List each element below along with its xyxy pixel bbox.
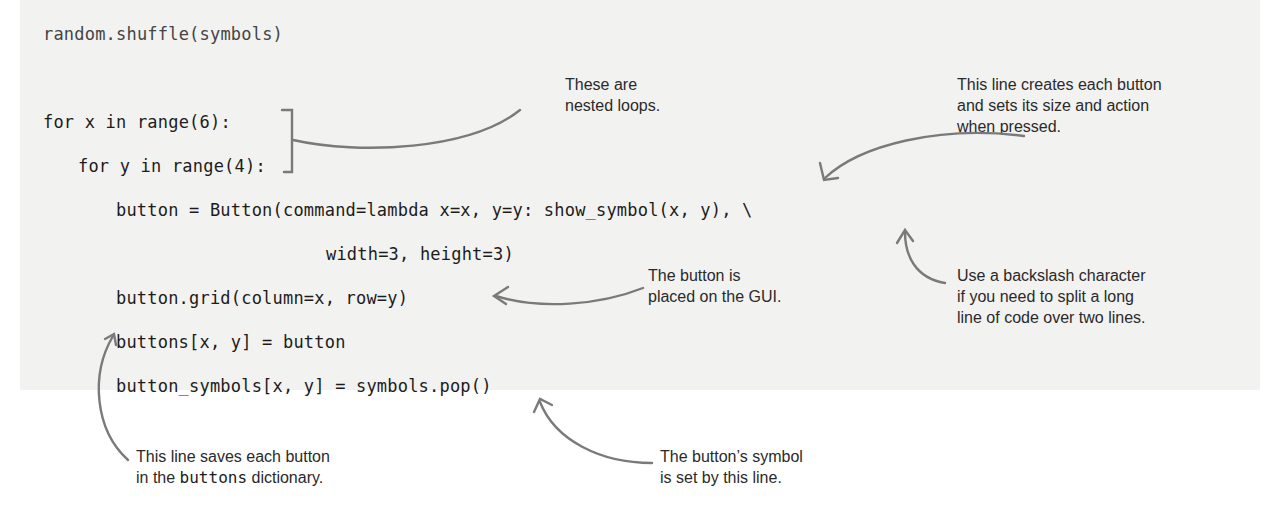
annotation-arrows [0, 0, 1268, 532]
placed-gui-arrowhead-icon [494, 287, 508, 304]
creates-button-arrowhead-icon [820, 163, 838, 180]
placed-gui-arrow-icon [496, 288, 643, 304]
saves-button-arrow-icon [99, 336, 128, 460]
nested-loops-connector-icon [293, 110, 520, 148]
symbol-set-arrow-icon [540, 402, 652, 463]
creates-button-arrow-icon [825, 133, 1024, 178]
nested-loops-bracket-icon [282, 110, 292, 172]
